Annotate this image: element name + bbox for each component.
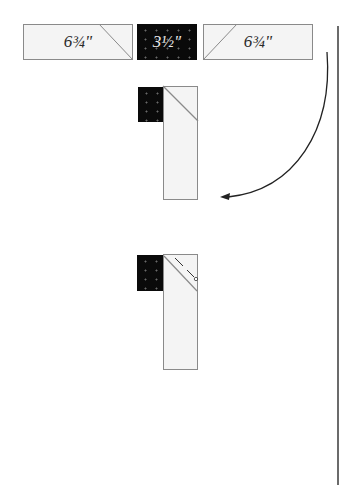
diagonal-seam-right [203, 24, 237, 60]
step2-diagonal-seam [164, 256, 197, 291]
diagram-lines [0, 0, 355, 490]
step2-stitch-line-b [187, 270, 194, 277]
arrow-head-icon [220, 193, 230, 200]
step2-stitch-line-a [175, 258, 183, 266]
step2-needle-icon [194, 277, 197, 280]
step1-diagonal-seam [163, 86, 198, 121]
curved-arrow [228, 52, 328, 197]
diagonal-seam-left [99, 24, 133, 60]
